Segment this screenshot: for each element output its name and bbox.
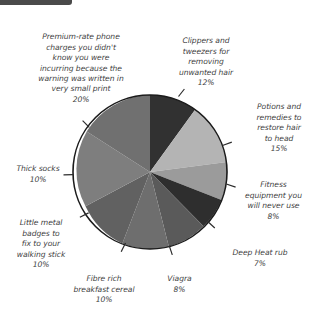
pie-label-badges: Little metal badges to fix to your walki… (6, 208, 76, 281)
pie-chart: Premium-rate phone charges you didn't kn… (0, 0, 317, 317)
pie-label-clippers-text: Clippers and tweezers for removing unwan… (179, 36, 233, 76)
pie-label-badges-text: Little metal badges to fix to your walki… (17, 218, 66, 258)
pie-label-socks-percent: 10% (2, 175, 74, 185)
pie-label-clippers-percent: 12% (160, 78, 252, 88)
pie-label-potions-percent: 15% (244, 144, 314, 154)
pie-label-deep-heat: Deep Heat rub 7% (210, 238, 310, 280)
pie-label-socks: Thick socks 10% (2, 154, 74, 196)
pie-label-deep-heat-percent: 7% (210, 259, 310, 269)
pie-label-fitness-text: Fitness equipment you will never use (245, 180, 302, 210)
pie-label-potions-text: Potions and remedies to restore hair to … (257, 102, 302, 142)
pie-label-potions: Potions and remedies to restore hair to … (244, 92, 314, 165)
pie-label-viagra-text: Viagra (167, 274, 191, 283)
pie-label-badges-percent: 10% (6, 260, 76, 270)
pie-label-deep-heat-text: Deep Heat rub (233, 248, 288, 257)
pie-label-premium-percent: 20% (8, 95, 154, 105)
pie-label-socks-text: Thick socks (16, 164, 59, 173)
pie-label-clippers: Clippers and tweezers for removing unwan… (160, 26, 252, 99)
pie-label-fibre-percent: 10% (58, 295, 150, 305)
pie-label-fibre-text: Fibre rich breakfast cereal (74, 274, 135, 293)
pie-label-premium-text: Premium-rate phone charges you didn't kn… (38, 32, 123, 93)
pie-label-viagra: Viagra 8% (152, 264, 207, 306)
pie-label-premium: Premium-rate phone charges you didn't kn… (8, 22, 154, 116)
pie-label-fitness-percent: 8% (233, 212, 314, 222)
pie-label-fitness: Fitness equipment you will never use 8% (233, 170, 314, 232)
pie-label-viagra-percent: 8% (152, 285, 207, 295)
